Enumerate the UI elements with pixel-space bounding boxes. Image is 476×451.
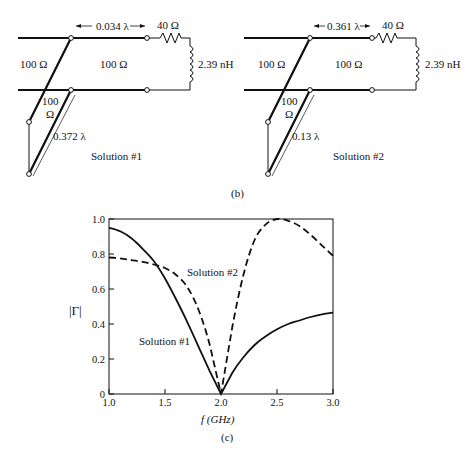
x-tick-label: 1.0	[102, 397, 115, 408]
stub-length-label-1: 0.372 λ	[53, 130, 87, 142]
annotation-solution-1: Solution #1	[139, 335, 190, 347]
series-solution-2	[109, 219, 333, 394]
arrowhead-icon	[314, 24, 319, 28]
series-length-label-2: 0.361 λ	[327, 20, 361, 32]
y-tick-label: 1.0	[92, 214, 105, 225]
x-tick-label: 3.0	[326, 397, 339, 408]
load-resistance-label-1: 40 Ω	[157, 19, 179, 31]
stub-length-label-2: 0.13 λ	[292, 130, 320, 142]
x-tick-labels: 1.01.52.02.53.0	[102, 397, 339, 408]
y-tick-label: 0.2	[92, 354, 105, 365]
series-solution-1	[109, 228, 333, 394]
x-axis-label: f (GHz)	[201, 413, 235, 426]
line-impedance-left-1: 100 Ω	[20, 58, 47, 70]
arrowhead-icon	[76, 24, 81, 28]
y-axis-label: |Γ|	[69, 303, 82, 318]
y-tick-labels: 00.20.40.60.81.0	[92, 214, 106, 400]
load-inductance-label-2: 2.39 nH	[425, 58, 461, 70]
annotation-solution-2: Solution #2	[187, 266, 238, 278]
x-tick-label: 2.0	[214, 397, 227, 408]
caption-b: (b)	[231, 187, 244, 200]
load-inductance-label-1: 2.39 nH	[198, 58, 234, 70]
x-tick-label: 2.5	[270, 397, 283, 408]
stub-impedance-bottom-1: Ω	[46, 108, 54, 120]
y-tick-label: 0.6	[92, 284, 105, 295]
line-impedance-right-1: 100 Ω	[100, 58, 127, 70]
circuit-solution-2	[244, 26, 419, 176]
chart-frame	[109, 219, 333, 394]
stub-impedance-bottom-2: Ω	[285, 108, 293, 120]
line-impedance-left-2: 100 Ω	[258, 58, 285, 70]
line-impedance-right-2: 100 Ω	[335, 58, 362, 70]
figure: 0.034 λ 40 Ω 2.39 nH 100 Ω 100 Ω 100 Ω 0…	[0, 0, 476, 451]
x-tick-label: 1.5	[158, 397, 171, 408]
caption-c: (c)	[221, 431, 234, 444]
arrowhead-icon	[365, 24, 370, 28]
series-length-label-1: 0.034 λ	[96, 20, 130, 32]
arrowhead-icon	[140, 24, 145, 28]
axis-ticks	[109, 219, 333, 394]
y-tick-label: 0.4	[92, 319, 106, 330]
y-tick-label: 0.8	[92, 249, 105, 260]
solution-2-label: Solution #2	[333, 150, 384, 162]
solution-1-label: Solution #1	[91, 150, 142, 162]
stub-impedance-top-1: 100	[42, 95, 59, 107]
load-resistance-label-2: 40 Ω	[382, 19, 404, 31]
stub-impedance-top-2: 100	[281, 95, 298, 107]
